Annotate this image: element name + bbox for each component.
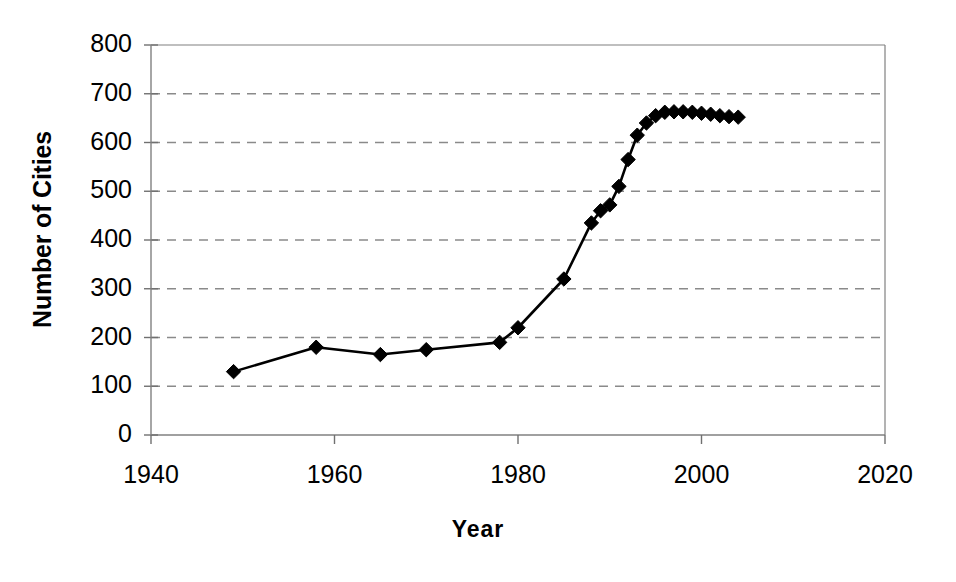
plot-area: [0, 0, 956, 582]
data-point-marker: [309, 340, 323, 354]
line-chart: Number of Cities Year 800700600500400300…: [0, 0, 956, 582]
data-point-marker: [731, 110, 745, 124]
data-point-marker: [226, 364, 240, 378]
series-line: [234, 112, 739, 372]
data-point-marker: [419, 342, 433, 356]
data-point-marker: [621, 152, 635, 166]
data-point-marker: [373, 347, 387, 361]
